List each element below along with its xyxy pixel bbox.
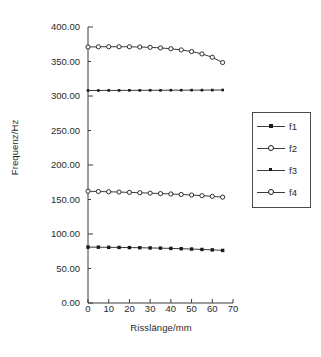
legend-entry-f2[interactable]: f2 (253, 142, 312, 156)
data-point-f2 (117, 190, 121, 194)
data-point-f1 (211, 248, 214, 251)
legend-marker-icon (269, 168, 272, 171)
data-point-f3 (138, 89, 141, 92)
data-point-f3 (118, 89, 121, 92)
legend-marker-icon (268, 189, 274, 195)
data-point-f4 (221, 60, 225, 64)
data-point-f4 (117, 45, 121, 49)
data-point-f1 (190, 247, 193, 250)
legend-marker-icon (268, 145, 274, 151)
data-point-f4 (96, 45, 100, 49)
legend-entry-f1[interactable]: f1 (253, 120, 312, 134)
data-point-f3 (211, 89, 214, 92)
data-point-f3 (107, 89, 110, 92)
data-point-f3 (128, 89, 131, 92)
data-point-f3 (97, 89, 100, 92)
legend-entry-f4[interactable]: f4 (253, 186, 312, 200)
legend: f1f2f3f4 (252, 112, 311, 208)
data-point-f2 (200, 194, 204, 198)
data-point-f1 (180, 247, 183, 250)
data-point-f1 (221, 249, 224, 252)
data-point-f1 (148, 246, 151, 249)
data-point-f2 (96, 189, 100, 193)
data-point-f2 (86, 189, 90, 193)
legend-label: f4 (289, 187, 297, 198)
data-point-f3 (159, 89, 162, 92)
legend-label: f3 (289, 165, 297, 176)
legend-label: f2 (289, 143, 297, 154)
data-point-f3 (87, 89, 90, 92)
data-point-f1 (97, 245, 100, 248)
data-point-f3 (221, 89, 224, 92)
data-point-f2 (210, 194, 214, 198)
data-point-f2 (148, 191, 152, 195)
data-point-f1 (159, 246, 162, 249)
data-point-f4 (200, 52, 204, 56)
data-point-f4 (189, 49, 193, 53)
data-point-f3 (170, 89, 173, 92)
legend-marker-icon (269, 124, 273, 128)
data-point-f2 (179, 192, 183, 196)
data-point-f3 (180, 89, 183, 92)
data-point-f2 (221, 195, 225, 199)
data-point-f1 (107, 246, 110, 249)
data-point-f1 (117, 246, 120, 249)
data-point-f1 (200, 248, 203, 251)
data-point-f4 (127, 45, 131, 49)
data-point-f4 (169, 47, 173, 51)
data-point-f2 (107, 190, 111, 194)
data-point-f4 (179, 48, 183, 52)
data-point-f2 (158, 191, 162, 195)
chart-figure: Frequenz/Hz 0.0050.00100.00150.00200.002… (0, 0, 321, 357)
data-point-f3 (201, 89, 204, 92)
data-point-f3 (149, 89, 152, 92)
data-point-f3 (190, 89, 193, 92)
data-point-f1 (86, 245, 89, 248)
data-point-f2 (189, 193, 193, 197)
data-point-f2 (127, 190, 131, 194)
legend-entry-f3[interactable]: f3 (253, 164, 312, 178)
data-point-f4 (138, 45, 142, 49)
data-point-f4 (210, 55, 214, 59)
data-point-f1 (128, 246, 131, 249)
data-point-f2 (169, 192, 173, 196)
data-point-f4 (158, 46, 162, 50)
data-point-f2 (138, 191, 142, 195)
data-point-f1 (169, 247, 172, 250)
legend-label: f1 (289, 121, 297, 132)
data-point-f4 (86, 45, 90, 49)
data-point-f4 (148, 45, 152, 49)
data-point-f4 (107, 45, 111, 49)
data-point-f1 (138, 246, 141, 249)
